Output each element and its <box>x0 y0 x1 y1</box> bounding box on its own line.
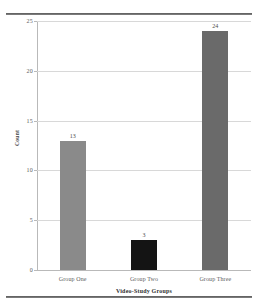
bar-chart-figure: 0510152025 13324 Group OneGroup TwoGroup… <box>0 0 259 306</box>
bottom-horizontal-rule <box>6 296 252 298</box>
y-tick-mark <box>34 170 37 171</box>
y-tick-mark <box>34 71 37 72</box>
bar: 13 <box>60 141 86 270</box>
x-axis-line <box>37 270 251 271</box>
y-tick-label: 20 <box>27 68 33 74</box>
bar: 3 <box>131 240 157 270</box>
gridline <box>37 21 251 22</box>
y-tick-label: 5 <box>30 217 33 223</box>
x-tick-label: Group One <box>59 276 87 282</box>
y-tick-label: 10 <box>27 167 33 173</box>
x-axis-title: Video-Study Groups <box>37 288 251 294</box>
top-horizontal-rule <box>6 13 252 15</box>
y-tick-mark <box>34 121 37 122</box>
y-tick-label: 15 <box>27 118 33 124</box>
y-axis-line <box>37 21 38 271</box>
bar: 24 <box>202 31 228 270</box>
y-tick-mark <box>34 21 37 22</box>
y-tick-label: 0 <box>30 267 33 273</box>
y-axis-title: Count <box>14 130 20 146</box>
y-tick-mark <box>34 220 37 221</box>
y-tick-mark <box>34 270 37 271</box>
bar-value-label: 13 <box>70 133 76 139</box>
bar-value-label: 24 <box>212 23 218 29</box>
y-tick-label: 25 <box>27 18 33 24</box>
x-tick-label: Group Two <box>130 276 158 282</box>
bar-value-label: 3 <box>143 232 146 238</box>
x-tick-label: Group Three <box>199 276 231 282</box>
plot-area: 0510152025 13324 Group OneGroup TwoGroup… <box>37 21 251 271</box>
